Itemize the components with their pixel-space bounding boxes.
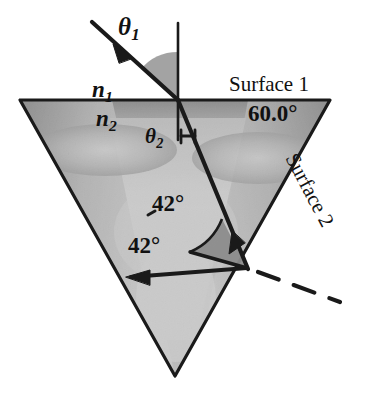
- n1-subscript: 1: [105, 88, 113, 105]
- theta2-subscript: 2: [156, 135, 163, 151]
- prism-body: [20, 100, 330, 380]
- n2-symbol: n: [96, 106, 109, 131]
- internal-angle-lower-label: 42°: [128, 234, 160, 257]
- n1-symbol: n: [92, 77, 105, 102]
- n2-subscript: 2: [109, 117, 117, 134]
- dashed-transmitted-ray: [258, 272, 340, 302]
- theta2-symbol: θ: [145, 124, 156, 148]
- theta1-subscript: 1: [131, 25, 140, 44]
- apex-angle-label: 60.0°: [248, 102, 297, 125]
- incident-ray-arrowhead: [113, 44, 133, 63]
- refractive-index-n1-label: n1: [92, 78, 113, 105]
- theta1-label: θ1: [118, 14, 140, 43]
- surface-1-label: Surface 1: [229, 74, 309, 95]
- prism-refraction-figure: θ1 θ2 n1 n2 Surface 1 Surface 2 60.0° 42…: [0, 0, 373, 400]
- theta2-label: θ2: [145, 126, 163, 150]
- refractive-index-n2-label: n2: [96, 107, 117, 134]
- theta1-symbol: θ: [118, 13, 131, 40]
- internal-angle-upper-label: 42°: [152, 192, 184, 215]
